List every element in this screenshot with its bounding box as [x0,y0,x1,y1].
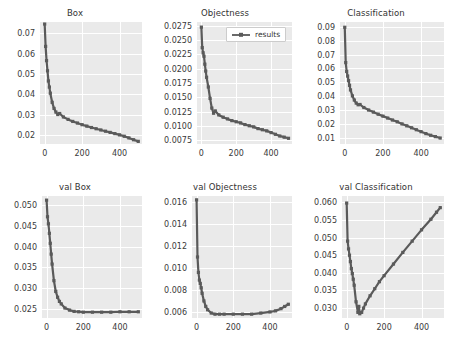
series-marker [439,136,442,139]
series-layer [40,22,142,144]
y-axis-tick-label: 0.0150 [150,93,192,102]
series-marker [137,140,140,143]
x-axis-tick-label: 200 [375,149,390,158]
series-marker [213,313,216,316]
series-marker [201,46,204,49]
series-marker [43,22,46,25]
series-marker [268,310,271,313]
series-marker [77,310,80,313]
x-axis-tick-label: 200 [74,149,89,158]
series-marker [357,305,360,308]
series-marker [381,115,384,118]
series-marker [287,303,290,306]
series-marker [90,126,93,129]
series-marker [132,138,135,141]
series-marker [343,26,346,29]
series-marker [202,299,205,302]
y-axis-tick-label: 0.0225 [150,50,192,59]
x-axis-tick-label: 400 [414,323,429,332]
series-marker [62,115,65,118]
y-axis-tick-label: 0.02 [0,130,35,139]
series-line [347,203,441,314]
series-marker [203,63,206,66]
series-marker [109,131,112,134]
series-marker [350,267,353,270]
series-marker [241,313,244,316]
series-marker [48,85,51,88]
series-marker [196,255,199,258]
series-marker [346,240,349,243]
series-marker [360,311,363,314]
y-axis-tick-label: 0.01 [300,133,335,142]
series-marker [202,51,205,54]
series-marker [113,132,116,135]
y-axis-tick-label: 0.0275 [150,21,192,30]
series-marker [45,59,48,62]
series-marker [202,55,205,58]
x-axis-tick-label: 0 [194,323,199,332]
chart-panel-val-box: val Box0.0250.0300.0350.0400.0450.050020… [0,174,150,348]
plot-area [342,196,444,318]
series-marker [200,292,203,295]
series-marker [269,131,272,134]
series-marker [278,134,281,137]
series-marker [71,120,74,123]
series-marker [400,122,403,125]
y-axis-tick-label: 0.014 [150,220,187,229]
series-marker [349,88,352,91]
series-marker [232,313,235,316]
legend[interactable]: results [226,27,286,42]
series-marker [68,309,71,312]
panel-title: Classification [300,8,452,18]
x-axis-tick-label: 400 [262,323,277,332]
series-marker [259,311,262,314]
y-axis-tick-label: 0.060 [300,198,337,207]
series-marker [358,103,361,106]
series-marker [54,290,57,293]
y-axis-tick-label: 0.0175 [150,79,192,88]
series-marker [66,118,69,121]
series-marker [205,76,208,79]
chart-panel-objectness: Objectness0.00750.01000.01250.01500.0175… [150,0,300,174]
series-marker [47,222,50,225]
series-marker [420,130,423,133]
series-marker [250,313,253,316]
series-line [201,27,288,138]
series-marker [197,271,200,274]
chart-panel-classification: Classification0.010.020.030.040.050.060.… [300,0,452,174]
series-marker [354,300,357,303]
series-marker [392,262,395,265]
panel-title: val Classification [300,182,452,192]
series-marker [353,98,356,101]
series-layer [192,196,292,318]
series-marker [287,137,290,140]
y-axis-tick-label: 0.050 [0,201,37,210]
series-marker [429,134,432,137]
series-marker [347,79,350,82]
series-marker [396,120,399,123]
series-marker [118,310,121,313]
series-marker [127,136,130,139]
y-axis-tick-label: 0.0250 [150,36,192,45]
series-marker [58,112,61,115]
series-marker [81,123,84,126]
series-marker [60,302,63,305]
x-axis-tick-label: 0 [42,149,47,158]
series-marker [48,232,51,235]
series-marker [378,280,381,283]
series-marker [348,254,351,257]
x-axis-tick-label: 200 [376,323,391,332]
y-axis-tick-label: 0.035 [0,263,37,272]
series-marker [46,215,49,218]
y-axis-tick-label: 0.040 [0,242,37,251]
series-marker [265,129,268,132]
y-axis-tick-label: 0.008 [150,285,187,294]
y-axis-tick-label: 0.03 [0,110,35,119]
series-marker [352,278,355,281]
series-marker [435,211,438,214]
series-line [47,200,139,312]
series-marker [214,109,217,112]
series-marker [56,296,59,299]
y-axis-tick-label: 0.010 [150,263,187,272]
series-marker [243,123,246,126]
